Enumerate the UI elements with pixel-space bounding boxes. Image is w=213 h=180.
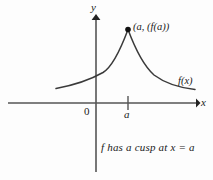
x-axis-label: x (201, 97, 206, 108)
x-axis-arrowhead (196, 99, 201, 108)
cusp-figure: y x 0 a (a, (f(a)) f(x) f has a cusp at … (0, 0, 213, 180)
cusp-point-label: (a, (f(a)) (133, 22, 169, 33)
y-axis-label: y (91, 2, 96, 13)
cusp-curve (56, 30, 195, 90)
figure-canvas (0, 0, 213, 180)
figure-caption: f has a cusp at x = a (101, 142, 195, 153)
x-tick-label-a: a (124, 109, 130, 120)
origin-label: 0 (84, 106, 90, 117)
cusp-point-marker (125, 27, 131, 33)
curve-function-label: f(x) (178, 76, 193, 87)
y-axis-arrowhead (92, 14, 101, 20)
